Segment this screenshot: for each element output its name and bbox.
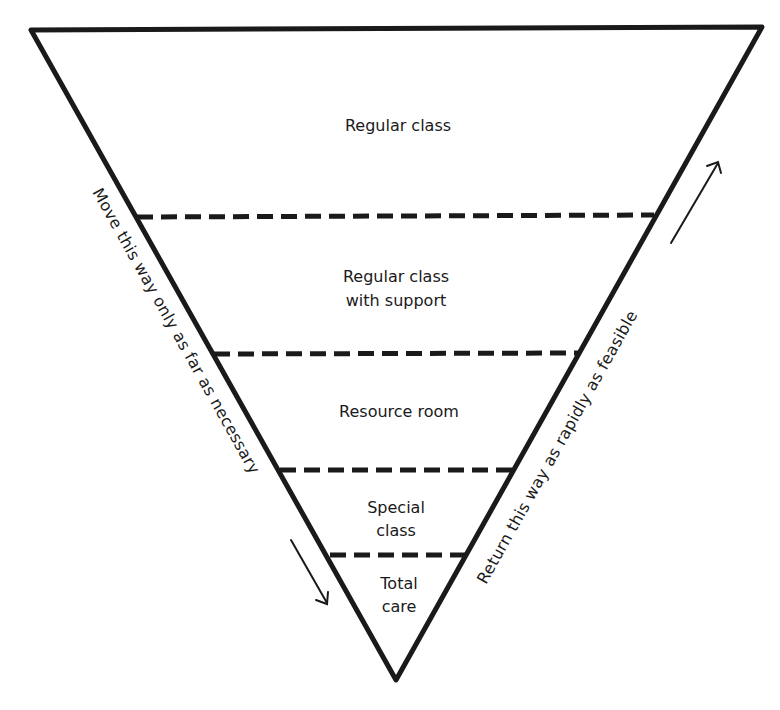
tier-label-total-care-line2: care	[382, 597, 417, 616]
tier-label-special-class-line2: class	[376, 521, 416, 540]
tier-label-total-care-line1: Total	[379, 574, 417, 593]
divider-2	[214, 353, 578, 354]
cascade-diagram: Regular class Regular class with support…	[0, 0, 780, 710]
right-annotation: Return this way as rapidly as feasible	[473, 307, 641, 587]
tier-label-resource-room: Resource room	[339, 402, 459, 421]
tier-label-regular-class-support-line1: Regular class	[343, 267, 449, 286]
tier-label-special-class-line1: Special	[367, 498, 425, 517]
tier-label-regular-class: Regular class	[345, 116, 451, 135]
tier-label-regular-class-support-line2: with support	[346, 291, 446, 310]
left-annotation: Move this way only as far as necessary	[89, 185, 265, 478]
divider-1	[137, 215, 654, 217]
